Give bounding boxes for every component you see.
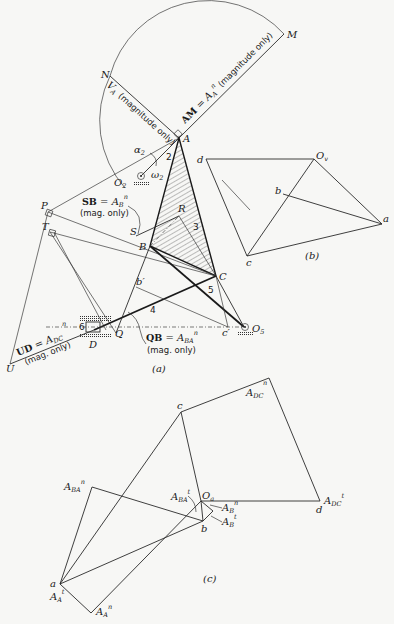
acc-label-d: d [316, 504, 322, 515]
label-N: N [100, 69, 111, 80]
acc-label-a: a [50, 578, 56, 589]
line-B-to-d [222, 180, 250, 210]
link-number-3: 3 [193, 222, 199, 232]
vel-b-a [283, 194, 382, 224]
annotation-VA: VA(magnitude only) [103, 79, 178, 148]
annotation-AM: AM = AAn (magnitude only) [177, 28, 277, 128]
part-a-mechanism: M N A O2 P T S R B C b′ c′ D Q U O5 2 3 … [6, 1, 298, 374]
acc-c-Oa [181, 412, 201, 501]
label-S: S [130, 226, 137, 237]
part-b-velocity-polygon: d Ov b a c (b) [197, 150, 389, 268]
label-B: B [138, 241, 146, 252]
line-C-O5 [216, 276, 244, 327]
label-O2: O2 [114, 177, 126, 190]
pivot-O2-pin [140, 175, 142, 177]
label-M: M [286, 29, 298, 40]
label-C: C [219, 271, 227, 282]
vel-label-c: c [246, 257, 252, 268]
leader-ABt [211, 516, 222, 522]
line-B-Q [116, 246, 150, 333]
vel-label-b: b [275, 185, 281, 196]
ground-O5 [237, 332, 253, 336]
acc-Oa-b [201, 501, 203, 521]
vel-label-a: a [383, 213, 389, 224]
label-T: T [42, 221, 50, 232]
acc-a-ABAn [60, 487, 92, 584]
label-A: A [182, 133, 190, 144]
label-R: R [177, 203, 186, 214]
label-c-prime: c′ [222, 327, 231, 338]
acc-AAn-Oa [91, 501, 201, 613]
acc-c-a [60, 412, 181, 584]
label-P: P [40, 200, 48, 211]
acc-vector-ADCt: ADCt [323, 492, 344, 508]
link-number-6: 6 [79, 322, 85, 332]
caption-b: (b) [305, 250, 319, 261]
label-U: U [6, 363, 15, 374]
acc-vector-ADCn: ADC [245, 387, 263, 400]
caption-c: (c) [203, 573, 217, 584]
vel-d-c [206, 159, 247, 256]
vel-label-Ov: Ov [316, 150, 328, 163]
label-alpha2: α2 [134, 144, 145, 157]
acc-vector-ADCn-sup: n [263, 379, 267, 387]
leader-QB [128, 312, 146, 344]
label-omega2: ω2 [151, 169, 163, 182]
line-T-D [54, 232, 106, 330]
label-b-prime: b′ [136, 276, 145, 287]
label-O5: O5 [252, 323, 264, 336]
annotation-QB-note: (mag. only) [147, 345, 196, 355]
acc-vector-ABAt: ABAt [170, 488, 191, 504]
annotation-SB-note: (mag. only) [80, 208, 129, 218]
ground-slider-top [80, 316, 112, 321]
part-c-acceleration-polygon: c d Oa b a ADC n ADCt ABAn ABAt ABn ABt … [49, 378, 344, 619]
acc-label-b: b [201, 523, 207, 534]
annotation-QB: QB = ABAn [146, 329, 198, 345]
leader-ABn [210, 505, 222, 508]
caption-a: (a) [152, 363, 166, 374]
acc-vector-ABAn: ABAn [63, 478, 85, 494]
line-AM [179, 34, 284, 138]
line-C-cprime [216, 276, 228, 327]
pivot-O5-pin [244, 326, 246, 328]
acc-vector-AAn: AAn [95, 603, 112, 619]
line-AN [110, 76, 179, 138]
label-D: D [88, 339, 97, 350]
annotation-UD-sup: n [62, 320, 66, 328]
acc-a-AAn [60, 584, 91, 613]
link-number-5: 5 [208, 285, 214, 295]
vel-Ov-c [247, 159, 314, 256]
acc-label-c: c [177, 400, 183, 411]
link-number-4: 4 [150, 305, 156, 315]
acc-vector-ABt: ABt [221, 513, 237, 529]
label-Q: Q [115, 328, 123, 339]
acc-a-b [60, 521, 203, 584]
link-number-2: 2 [166, 152, 172, 162]
ground-O2 [133, 181, 149, 185]
vel-label-d: d [197, 154, 203, 165]
link-4 [94, 276, 216, 330]
vel-Ov-a [314, 159, 382, 224]
acc-vector-AAt: AAt [49, 588, 65, 604]
kinematics-diagram: M N A O2 P T S R B C b′ c′ D Q U O5 2 3 … [0, 0, 394, 624]
annotation-SB: SB = ABn [82, 193, 128, 209]
acc-ADCn-d [269, 378, 320, 501]
